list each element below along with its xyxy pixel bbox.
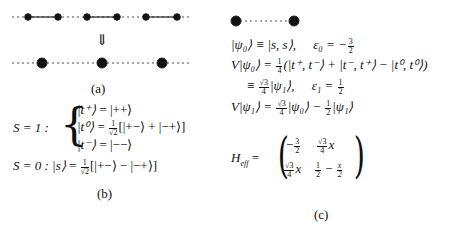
equation-text: |ψ₀⟩ ≡ |s, s⟩, <box>231 37 296 52</box>
equation-psi1: ≡ √34|ψ₁⟩, ε₁ = 12 <box>247 79 345 96</box>
epsilon-0: ε₀ = − <box>313 37 347 52</box>
equation-v-psi0: V|ψ₀⟩ = 14(|t⁺, t⁻⟩ + |t⁻, t⁺⟩ − |t⁰, t⁰… <box>231 58 428 75</box>
triplet-label: S = 1 : <box>13 121 49 135</box>
matrix-cell-11: 12 − x2 <box>314 162 343 179</box>
equals: = <box>69 158 76 173</box>
matrix-right-paren: ) <box>354 131 365 179</box>
heff-label: Heff = <box>231 151 259 171</box>
fraction: 32 <box>348 38 354 55</box>
equation-lhs: V|ψ₀⟩ = <box>231 57 272 72</box>
equation-psi0: |ψ₀⟩ ≡ |s, s⟩, ε₀ = −32 <box>231 38 355 55</box>
caption-a: (a) <box>91 81 105 97</box>
caption-c: (c) <box>314 207 328 223</box>
matrix-cell-10: √34x <box>283 162 301 179</box>
equation-v-psi1: V|ψ₁⟩ = √34|ψ₀⟩ − 12|ψ₁⟩ <box>231 100 353 117</box>
bottom-chain <box>12 58 192 68</box>
pair-diagram <box>231 16 299 26</box>
equals: = <box>97 119 104 134</box>
triplet-state-minus: |t⁻⟩ = |−−⟩ <box>77 138 132 152</box>
state-rhs: = |++⟩ <box>99 102 132 117</box>
fraction: 14 <box>276 58 282 75</box>
coefficient: 1√2 <box>81 159 89 176</box>
equation-lhs: V|ψ₁⟩ = <box>231 99 272 114</box>
equation-text: |ψ₀⟩ − <box>288 99 321 114</box>
equation-text: |ψ₁⟩, <box>270 78 294 93</box>
state-rhs: [|+−⟩ + |−+⟩] <box>118 119 185 134</box>
top-chain <box>12 14 192 21</box>
epsilon-1: ε₁ = <box>312 78 334 93</box>
triplet-state-plus: |t⁺⟩ = |++⟩ <box>77 103 132 117</box>
coefficient: 1√2 <box>109 120 117 137</box>
triplet-state-zero: |t⁰⟩ = 1√2[|+−⟩ + |−+⟩] <box>77 120 185 137</box>
state-rhs: [|+−⟩ − |−+⟩] <box>90 158 157 173</box>
singlet-label: S = 0 : <box>13 158 49 173</box>
state-lhs: |s⟩ <box>52 158 66 173</box>
caption-b: (b) <box>97 186 112 202</box>
fraction: 12 <box>338 79 344 96</box>
singlet-state: S = 0 : |s⟩ = 1√2[|+−⟩ − |−+⟩] <box>13 159 157 176</box>
state-lhs: |t⁻⟩ <box>77 137 96 152</box>
fraction: √34 <box>276 100 286 117</box>
fraction: √34 <box>259 79 269 96</box>
equation-text: |ψ₁⟩ <box>332 99 353 114</box>
equiv: ≡ <box>247 78 254 93</box>
state-lhs: |t⁰⟩ <box>77 119 94 134</box>
equation-text: (|t⁺, t⁻⟩ + |t⁻, t⁺⟩ − |t⁰, t⁰⟩) <box>283 57 427 72</box>
state-lhs: |t⁺⟩ <box>77 102 96 117</box>
matrix-cell-00: −32 <box>286 138 301 155</box>
matrix-cell-01: √34x <box>316 138 334 155</box>
downward-arrow: ⇓ <box>96 31 109 49</box>
fraction: 12 <box>325 100 331 117</box>
state-rhs: = |−−⟩ <box>99 137 132 152</box>
